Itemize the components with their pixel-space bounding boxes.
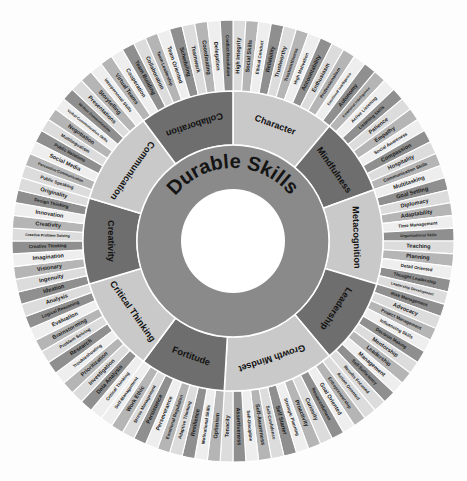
skill-label: Assertiveness (235, 407, 242, 445)
category-label: Creativity (106, 220, 116, 263)
wheel-diagram: High IntegritySocial SkillsEthical Condu… (0, 0, 467, 481)
skill-label: Teaching (406, 243, 431, 250)
category-label: Metacognition (351, 206, 363, 269)
skill-label: High Integrity (234, 37, 241, 74)
skill-label: Tenacity (224, 414, 231, 437)
hub-center-hole (181, 189, 285, 293)
center-hub (137, 145, 329, 337)
durable-skills-wheel: High IntegritySocial SkillsEthical Condu… (0, 0, 467, 481)
